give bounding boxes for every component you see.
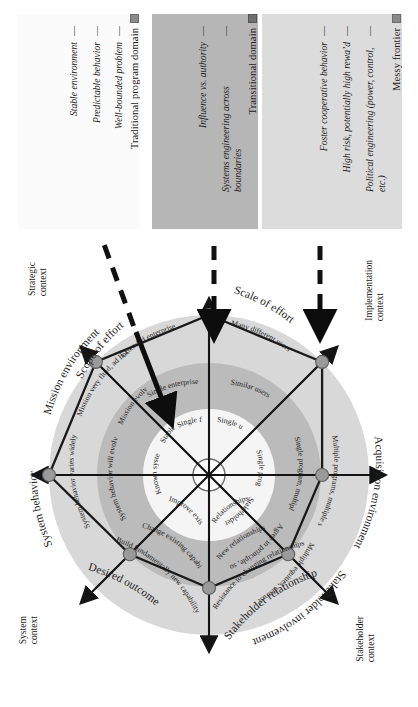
axis-label-desired-outcome: Desired outcome — [87, 560, 162, 607]
legend-dash-icon: — — [341, 26, 352, 36]
legend: Traditional program domain — Well-bounde… — [0, 0, 418, 245]
axis-label-mission-environment: Mission environment — [41, 325, 102, 416]
legend-swatch-icon — [392, 14, 401, 23]
legend-header: Traditional program domain — [129, 14, 140, 149]
axis-label-acquisition-environment: Acquisition environment — [352, 435, 386, 552]
level-label-outer-scale: Many different users — [230, 318, 292, 353]
legend-bullet-label: Influence vs. authority — [197, 42, 209, 128]
axis-label-scale-of-effort: Scale of effort — [233, 284, 298, 326]
axis-label-system-behavior: System behavior — [27, 471, 55, 549]
legend-header: Transitional domain — [247, 14, 258, 114]
legend-block-transitional: Transitional domain — Systems engineerin… — [152, 14, 258, 229]
legend-block-traditional: Traditional program domain — Well-bounde… — [18, 14, 140, 229]
legend-bullet: — Well-bounded problem — [113, 26, 125, 129]
legend-dash-icon: — — [364, 26, 375, 36]
legend-dash-icon: — — [220, 26, 231, 36]
context-caption-stakeholder: Stakeholdercontext — [355, 616, 376, 665]
legend-bullet-label: Well-bounded problem — [113, 42, 125, 129]
legend-swatch-icon — [130, 14, 139, 23]
legend-bullet: — Systems engineering across boundaries — [220, 26, 243, 192]
legend-bullet-label: Predictable behavior — [91, 42, 103, 123]
level-label-middle-scope: Single enterprise — [145, 377, 199, 399]
legend-dash-icon: — — [318, 26, 329, 36]
context-caption-implementation: Implementationcontext — [364, 260, 385, 323]
level-label-middle-scale: Similar users — [230, 378, 272, 400]
legend-dash-icon: — — [197, 26, 208, 36]
legend-dash-icon: — — [68, 26, 79, 36]
legend-title: Traditional program domain — [129, 28, 140, 149]
context-caption-line2: context — [375, 293, 386, 321]
legend-bullet-label: Stable environment — [68, 42, 80, 116]
legend-bullet-label: Systems engineering across boundaries — [220, 42, 243, 192]
legend-bullet: — Foster cooperative behavior — [318, 26, 330, 151]
legend-bullet: — Predictable behavior — [91, 26, 103, 123]
context-caption-line2: context — [366, 634, 377, 662]
legend-bullet: — Stable environment — [68, 26, 80, 116]
legend-bullet-list: — Political engineering (power, control,… — [307, 26, 387, 192]
legend-bullet-label: Political engineering (power, control, e… — [364, 42, 387, 192]
legend-bullet-list: — Systems engineering across boundaries … — [186, 26, 243, 192]
legend-title: Transitional domain — [247, 28, 258, 114]
legend-bullet-label: Foster cooperative behavior — [318, 42, 330, 151]
context-caption-line2: context — [29, 616, 40, 644]
legend-block-messy-frontier: Messy frontier — Political engineering (… — [262, 14, 402, 229]
legend-bullet: — Political engineering (power, control,… — [364, 26, 387, 192]
legend-bullet-list: — Well-bounded problem — Predictable beh… — [57, 26, 125, 129]
legend-swatch-icon — [248, 14, 257, 23]
legend-bullet: — Influence vs. authority — [197, 26, 209, 128]
radar-diagram: Scope of effort Scale of effort Acquisit… — [0, 238, 418, 707]
context-caption-line2: context — [38, 268, 49, 296]
level-label-middle-relationship: New relationships — [214, 523, 266, 562]
context-caption-system: Systemcontext — [18, 616, 39, 647]
legend-dash-icon: — — [91, 26, 102, 36]
legend-bullet: — High risk, potentially high rewa’d — [341, 26, 353, 172]
level-label-outer-behavior: System behavior varies widely — [67, 434, 92, 531]
level-label-middle-mission: Mission evolves slowly — [0, 238, 149, 426]
legend-title: Messy frontier — [391, 28, 402, 91]
legend-dash-icon: — — [113, 26, 124, 36]
context-caption-strategic: Strategiccontext — [27, 262, 48, 299]
legend-bullet-label: High risk, potentially high rewa’d — [341, 42, 353, 172]
legend-header: Messy frontier — [391, 14, 402, 91]
